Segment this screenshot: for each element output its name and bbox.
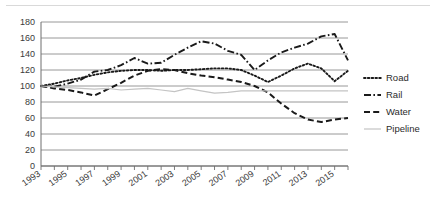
y-tick-label: 160 xyxy=(20,33,35,43)
x-tick-label: 2007 xyxy=(207,168,229,188)
legend-label-pipeline[interactable]: Pipeline xyxy=(386,123,420,134)
chart-container: 180160140120100806040200 199319951997199… xyxy=(0,0,438,204)
chart-legend[interactable]: RoadRailWaterPipeline xyxy=(364,72,420,134)
line-chart: 180160140120100806040200 199319951997199… xyxy=(0,0,438,204)
x-tick-label: 1997 xyxy=(73,168,95,188)
y-tick-label: 40 xyxy=(25,129,35,139)
x-tick-label: 2009 xyxy=(234,168,256,188)
x-tick-label: 1995 xyxy=(47,168,69,188)
y-tick-label: 120 xyxy=(20,65,35,75)
x-tick-label: 2013 xyxy=(287,168,309,188)
x-axis-labels: 1993199519971999200120032005200720092011… xyxy=(20,168,336,188)
data-series xyxy=(41,34,348,122)
y-axis-labels: 180160140120100806040200 xyxy=(20,17,35,171)
y-tick-label: 140 xyxy=(20,49,35,59)
y-tick-label: 80 xyxy=(25,97,35,107)
y-tick-label: 60 xyxy=(25,113,35,123)
x-tick-label: 1993 xyxy=(20,168,42,188)
top-divider-rule xyxy=(6,5,430,6)
y-tick-label: 180 xyxy=(20,17,35,27)
legend-label-rail[interactable]: Rail xyxy=(386,89,402,100)
x-tick-label: 2011 xyxy=(261,168,283,187)
x-tick-label: 1999 xyxy=(100,168,122,188)
x-tick-label: 2003 xyxy=(153,168,175,188)
legend-label-water[interactable]: Water xyxy=(386,106,411,117)
y-tick-label: 100 xyxy=(20,81,35,91)
x-tick-label: 2001 xyxy=(127,168,149,188)
y-tick-label: 20 xyxy=(25,145,35,155)
series-line-rail xyxy=(41,34,348,87)
legend-label-road[interactable]: Road xyxy=(386,72,409,83)
x-tick-label: 2005 xyxy=(180,168,202,188)
x-tick-label: 2015 xyxy=(314,168,336,188)
series-line-pipeline xyxy=(41,86,348,93)
